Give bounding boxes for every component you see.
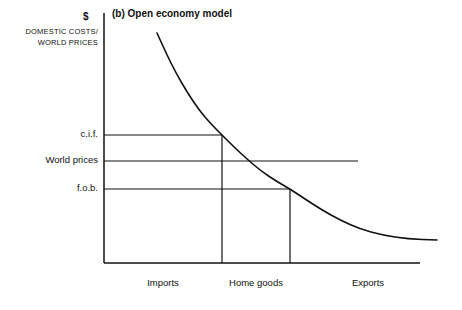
domestic-resource-cost-curve [157,33,437,240]
region-label-exports: Exports [308,277,428,288]
region-label-home-goods: Home goods [196,277,316,288]
price-label-fob: f.o.b. [6,182,98,193]
panel-title: (b) Open economy model [112,8,232,19]
economics-figure: $ Domestic costs/ world prices (b) Open … [0,0,462,310]
price-label-world-prices: World prices [6,154,98,165]
y-axis-title-line-1: Domestic costs/ [25,27,98,36]
currency-symbol: $ [83,11,89,22]
price-label-cif: c.i.f. [6,128,98,139]
y-axis-title: Domestic costs/ world prices [6,26,98,48]
y-axis-title-line-2: world prices [38,38,98,47]
